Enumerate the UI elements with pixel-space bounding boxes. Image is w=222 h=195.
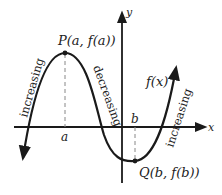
x-axis-label: x (208, 121, 215, 134)
function-graph: y x P(a, f(a)) Q(b, f(b)) f(x) a b incre… (0, 0, 222, 195)
min-point-label: Q(b, f(b)) (139, 165, 200, 180)
tick-label-b: b (131, 112, 139, 126)
min-point (133, 159, 138, 164)
interval-label-decreasing: decreasing (90, 63, 125, 129)
interval-label-increasing-right: increasing (163, 86, 195, 149)
curve-label: f(x) (145, 74, 168, 89)
max-point-label: P(a, f(a)) (57, 33, 116, 48)
y-axis-label: y (125, 6, 133, 19)
interval-label-increasing-left: increasing (16, 56, 46, 119)
max-point (63, 51, 68, 56)
tick-label-a: a (61, 130, 68, 144)
